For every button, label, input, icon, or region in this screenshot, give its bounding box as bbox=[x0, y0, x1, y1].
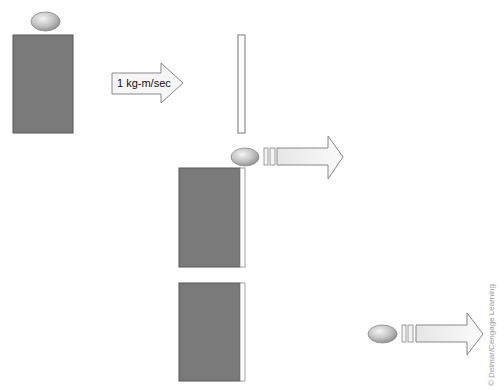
motion-arrow-3 bbox=[416, 313, 483, 355]
slab-upright bbox=[238, 35, 245, 133]
momentum-label: 1 kg-m/sec bbox=[117, 77, 171, 89]
motion-bar bbox=[402, 325, 406, 342]
ball-2 bbox=[231, 148, 259, 166]
stage-3 bbox=[179, 283, 483, 381]
stage-1 bbox=[13, 12, 245, 133]
motion-bar bbox=[270, 148, 275, 165]
block-2 bbox=[179, 168, 240, 267]
motion-bar bbox=[264, 148, 268, 165]
credit-text: © Delmar/Cengage Learning bbox=[487, 284, 496, 386]
slab-3 bbox=[240, 283, 245, 381]
block-1 bbox=[13, 35, 73, 133]
ball-3 bbox=[368, 325, 397, 343]
momentum-diagram bbox=[0, 0, 504, 390]
stage-2 bbox=[179, 136, 343, 267]
slab-2 bbox=[240, 168, 245, 267]
motion-arrow-2 bbox=[277, 136, 343, 179]
block-3 bbox=[179, 283, 240, 381]
ball-1 bbox=[31, 12, 60, 31]
motion-bar bbox=[408, 325, 413, 342]
